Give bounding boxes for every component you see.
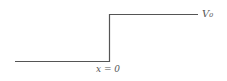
- boundary-label: x = 0: [96, 65, 120, 74]
- potential-label: V₀: [202, 9, 213, 19]
- potential-curve: [15, 15, 198, 62]
